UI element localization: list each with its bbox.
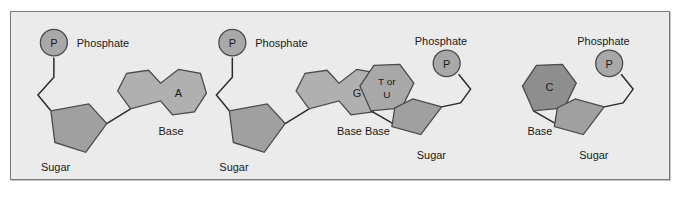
sugar-base-bond-thymine-uracil: [371, 111, 395, 125]
phosphate-label-thymine-uracil: Phosphate: [415, 35, 467, 47]
base-label-cytosine: Base: [527, 125, 552, 137]
phosphate-glyph-thymine-uracil: P: [443, 58, 450, 70]
sugar-pentagon-adenine: [51, 104, 107, 152]
figure-root: P Phosphate Sugar A Base P Phos: [0, 0, 685, 200]
sugar-label-thymine-uracil: Sugar: [417, 149, 447, 161]
phosphate-glyph-adenine: P: [50, 37, 57, 49]
base-label-adenine: Base: [159, 125, 184, 137]
sugar-label-cytosine: Sugar: [579, 149, 609, 161]
base-letter-cytosine: C: [545, 81, 553, 93]
phosphate-glyph-guanine: P: [229, 37, 236, 49]
nucleotide-thymine-uracil: Phosphate P T or U Base Sugar: [360, 35, 471, 162]
base-letter-guanine: G: [353, 87, 362, 99]
phosphate-label-guanine: Phosphate: [255, 37, 307, 49]
sugar-label-adenine: Sugar: [41, 161, 71, 173]
phosphate-label-cytosine: Phosphate: [577, 35, 629, 47]
base-label-guanine: Base: [337, 125, 362, 137]
phosphate-sugar-bond-thymine-uracil: [442, 74, 471, 107]
phosphate-sugar-bond-guanine: [216, 57, 232, 110]
phosphate-label-adenine: Phosphate: [77, 37, 129, 49]
base-letter-line1-thymine-uracil: T or: [378, 76, 396, 87]
phosphate-sugar-bond-cytosine: [604, 74, 633, 107]
nucleotides-diagram: P Phosphate Sugar A Base P Phos: [11, 12, 669, 179]
phosphate-sugar-bond-adenine: [38, 57, 54, 110]
base-letter-adenine: A: [175, 87, 183, 99]
nucleotide-guanine: P Phosphate Sugar G Base: [216, 29, 384, 173]
base-letter-line2-thymine-uracil: U: [383, 89, 390, 100]
sugar-label-guanine: Sugar: [219, 161, 249, 173]
nucleotide-adenine: P Phosphate Sugar A Base: [38, 29, 206, 173]
phosphate-glyph-cytosine: P: [606, 58, 613, 70]
diagram-panel: P Phosphate Sugar A Base P Phos: [10, 11, 670, 180]
sugar-base-bond-cytosine: [533, 111, 557, 125]
sugar-base-bond-adenine: [107, 109, 131, 124]
sugar-base-bond-guanine: [285, 109, 309, 124]
nucleotide-cytosine: Phosphate P C Base Sugar: [522, 35, 633, 162]
sugar-pentagon-guanine: [229, 104, 285, 152]
base-label-thymine-uracil: Base: [365, 125, 390, 137]
base-purine-adenine: [118, 69, 207, 114]
